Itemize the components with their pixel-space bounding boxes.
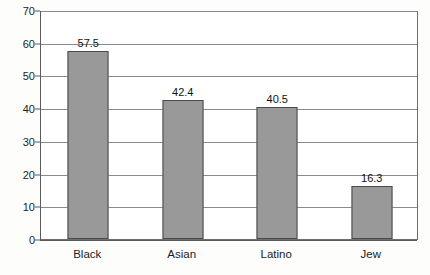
bar-value-label-latino: 40.5 [267, 93, 288, 105]
y-axis-tick-mark [35, 109, 40, 110]
y-axis-tick-label: 30 [23, 136, 35, 147]
y-axis-tick-mark [35, 141, 40, 142]
bar-value-label-asian: 42.4 [172, 86, 193, 98]
y-axis-tick-label: 60 [23, 38, 35, 49]
y-axis-tick-label: 40 [23, 104, 35, 115]
bar-group: 57.542.440.516.3 [41, 12, 417, 239]
y-axis-tick-mark [35, 43, 40, 44]
bar-chart: 57.542.440.516.3 010203040506070 BlackAs… [0, 0, 430, 275]
y-axis-tick-mark [35, 207, 40, 208]
bar-slot-black: 57.5 [41, 12, 136, 239]
bar-latino[interactable] [257, 107, 298, 239]
x-axis-label-latino: Latino [261, 248, 292, 261]
bar-slot-latino: 40.5 [230, 12, 325, 239]
y-axis-tick-label: 0 [29, 235, 35, 246]
y-axis-tick-label: 10 [23, 202, 35, 213]
bar-slot-asian: 42.4 [136, 12, 231, 239]
bar-value-label-jew: 16.3 [361, 172, 382, 184]
y-axis-line [40, 11, 41, 241]
y-axis-tick-label: 50 [23, 71, 35, 82]
x-axis-label-jew: Jew [361, 248, 381, 261]
y-axis-tick-label: 20 [23, 169, 35, 180]
bar-jew[interactable] [351, 186, 392, 239]
bar-black[interactable] [68, 51, 109, 239]
plot-area: 57.542.440.516.3 [40, 11, 418, 240]
gridline-0 [41, 240, 417, 241]
y-axis-tick-mark [35, 11, 40, 12]
bar-asian[interactable] [162, 100, 203, 239]
x-axis-label-asian: Asian [167, 248, 196, 261]
y-axis-tick-mark [35, 174, 40, 175]
y-axis-tick-mark [35, 240, 40, 241]
x-axis-label-black: Black [73, 248, 101, 261]
bar-slot-jew: 16.3 [325, 12, 420, 239]
y-axis-tick-label: 70 [23, 6, 35, 17]
y-axis-tick-mark [35, 76, 40, 77]
bar-value-label-black: 57.5 [78, 37, 99, 49]
